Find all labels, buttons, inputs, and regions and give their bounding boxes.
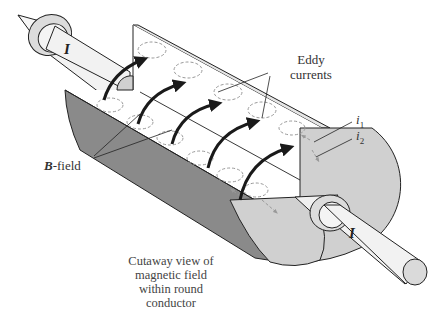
- current-label-right: I: [349, 226, 355, 241]
- eddy-currents-label: Eddy currents: [276, 52, 346, 82]
- i2-label: i2: [356, 128, 364, 149]
- caption: Cutaway view of magnetic field within ro…: [116, 254, 226, 310]
- current-label-left: I: [64, 42, 70, 57]
- b-field-label: B-field: [44, 158, 81, 173]
